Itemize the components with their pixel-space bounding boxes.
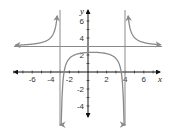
right-branch [128, 16, 160, 45]
y-tick-label: 6 [80, 17, 85, 26]
x-tick-label: -2 [66, 75, 74, 84]
y-tick-label: -4 [77, 102, 85, 111]
y-axis-label: y [79, 6, 84, 16]
x-tick-label: 2 [104, 75, 109, 84]
middle-branch [60, 52, 125, 124]
x-tick-label: 6 [142, 75, 147, 84]
x-tick-label: -6 [29, 75, 37, 84]
y-tick-label: -2 [77, 85, 85, 94]
rational-function-graph: -6-4-2246 642-2-4 x y [0, 0, 172, 132]
x-axis-label: x [157, 74, 162, 84]
left-branch [15, 16, 57, 45]
y-tick-label: 4 [80, 34, 85, 43]
x-ticks: -6-4-2246 [14, 71, 154, 85]
x-tick-label: -4 [47, 75, 55, 84]
